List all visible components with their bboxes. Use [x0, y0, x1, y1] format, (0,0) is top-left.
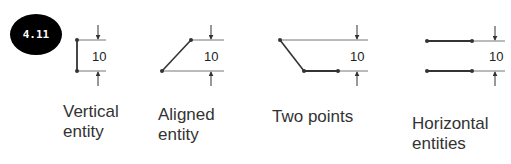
two-points-figure: 10: [278, 25, 368, 86]
dimension-value: 10: [489, 49, 503, 64]
caption-aligned-entity: Aligned entity: [158, 105, 215, 145]
dimension-value: 10: [204, 49, 218, 64]
caption-vertical-entity: Vertical entity: [63, 102, 119, 142]
horizontal-entities-figure: 10: [425, 26, 505, 86]
aligned-entity-figure: 10: [160, 25, 224, 86]
vertical-entity-figure: 10: [75, 25, 106, 86]
dimension-value: 10: [92, 49, 106, 64]
dimension-value: 10: [350, 49, 364, 64]
caption-horizontal-entities: Horizontal entities: [412, 114, 489, 154]
caption-two-points: Two points: [272, 107, 353, 127]
